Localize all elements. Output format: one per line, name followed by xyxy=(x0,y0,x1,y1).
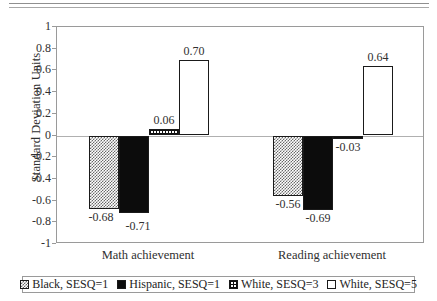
chart-legend: Black, SESQ=1Hispanic, SESQ=1White, SESQ… xyxy=(22,276,415,293)
y-tick-mark xyxy=(52,243,56,244)
y-tick-label: 0.2 xyxy=(10,105,56,120)
y-tick-label: -0.6 xyxy=(10,192,56,207)
bar-value-label: 0.06 xyxy=(154,113,175,128)
plot-area: -0.68-0.710.060.70-0.56-0.69-0.030.64 xyxy=(56,26,424,243)
bar-value-label: -0.56 xyxy=(276,197,301,212)
y-tick-label: -0.4 xyxy=(10,170,56,185)
bar-chart: Standard Deviation Units 10.80.60.40.20-… xyxy=(0,14,437,264)
legend-item-label: Black, SESQ=1 xyxy=(32,277,108,292)
bar xyxy=(273,136,303,197)
legend-item[interactable]: Black, SESQ=1 xyxy=(20,277,108,292)
legend-item[interactable]: Hispanic, SESQ=1 xyxy=(117,277,220,292)
y-tick-label: -0.8 xyxy=(10,214,56,229)
y-tick-label: 0.8 xyxy=(10,40,56,55)
category-label: Reading achievement xyxy=(278,248,386,263)
bar xyxy=(179,60,209,136)
y-tick-label: 0.4 xyxy=(10,84,56,99)
legend-item[interactable]: White, SESQ=3 xyxy=(229,277,318,292)
rule-line-lower xyxy=(9,7,429,8)
bar xyxy=(363,66,393,135)
legend-item-label: White, SESQ=3 xyxy=(241,277,318,292)
bar xyxy=(89,136,119,210)
category-label: Math achievement xyxy=(102,248,195,263)
y-tick-label: 0 xyxy=(10,127,56,142)
bar-value-label: -0.03 xyxy=(336,140,361,155)
y-axis-ticks: 10.80.60.40.20-0.2-0.4-0.6-0.8-1 xyxy=(0,26,56,243)
legend-swatch-icon xyxy=(117,280,126,289)
bar-value-label: 0.64 xyxy=(368,50,389,65)
bar xyxy=(119,136,149,213)
rule-line-upper xyxy=(9,3,429,4)
bar-value-label: 0.70 xyxy=(184,44,205,59)
bar-value-label: -0.71 xyxy=(126,219,151,234)
legend-item-label: Hispanic, SESQ=1 xyxy=(129,277,220,292)
top-double-rule xyxy=(9,3,429,10)
y-tick-label: 1 xyxy=(10,19,56,34)
bar-value-label: -0.69 xyxy=(306,211,331,226)
bar-value-label: -0.68 xyxy=(89,210,114,225)
legend-swatch-icon xyxy=(327,280,336,289)
legend-swatch-icon xyxy=(20,280,29,289)
bar xyxy=(303,136,333,211)
bar xyxy=(149,129,179,136)
bar xyxy=(333,136,363,139)
y-tick-label: -0.2 xyxy=(10,149,56,164)
y-tick-label: 0.6 xyxy=(10,62,56,77)
legend-swatch-icon xyxy=(229,280,238,289)
bars-layer: -0.68-0.710.060.70-0.56-0.69-0.030.64 xyxy=(57,27,423,242)
legend-item[interactable]: White, SESQ=5 xyxy=(327,277,416,292)
legend-item-label: White, SESQ=5 xyxy=(339,277,416,292)
y-tick-label: -1 xyxy=(10,236,56,251)
